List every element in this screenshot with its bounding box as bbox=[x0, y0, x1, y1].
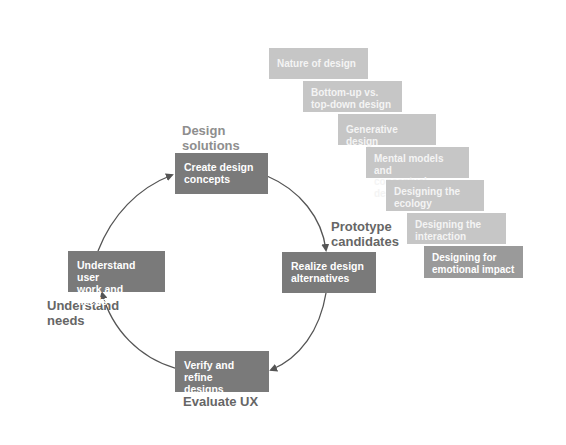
stage-label-line: candidates bbox=[331, 234, 399, 249]
node-understand-user-work-and-needs: Understand user work and needs bbox=[68, 251, 165, 292]
topic-generative-design: Generative design bbox=[338, 114, 436, 145]
topic-text: ecology bbox=[394, 198, 476, 210]
node-verify-and-refine-designs: Verify and refine designs bbox=[175, 351, 269, 392]
topic-nature-of-design: Nature of design bbox=[269, 48, 368, 79]
topic-text: interaction bbox=[415, 231, 498, 243]
topic-text: Generative design bbox=[346, 124, 428, 147]
topic-text: Designing the bbox=[394, 186, 476, 198]
stage-label-line: Prototype bbox=[331, 219, 399, 234]
node-text: Create design bbox=[184, 161, 259, 173]
arrow-create-to-realize bbox=[267, 176, 326, 250]
topic-bottom-up-vs-top-down: Bottom-up vs. top-down design bbox=[303, 81, 402, 112]
stage-label-line: solutions bbox=[182, 138, 240, 153]
stage-label-line: Design bbox=[182, 123, 240, 138]
node-text: alternatives bbox=[291, 272, 367, 284]
node-text: designs bbox=[184, 383, 260, 395]
node-realize-design-alternatives: Realize design alternatives bbox=[282, 252, 376, 293]
node-text: concepts bbox=[184, 173, 259, 185]
node-text: work and needs bbox=[77, 283, 156, 307]
node-text: Realize design bbox=[291, 260, 367, 272]
topic-text: Designing for bbox=[432, 252, 515, 264]
stage-label-prototype-candidates: Prototype candidates bbox=[331, 219, 399, 249]
topic-designing-for-emotional-impact: Designing for emotional impact bbox=[424, 246, 523, 278]
arrow-understand-to-create bbox=[98, 175, 172, 251]
stage-label-evaluate-ux: Evaluate UX bbox=[183, 394, 258, 409]
topic-text: Bottom-up vs. bbox=[311, 87, 394, 99]
stage-label-line: needs bbox=[47, 313, 119, 328]
topic-text: top-down design bbox=[311, 99, 394, 111]
topic-text: Nature of design bbox=[277, 58, 360, 70]
stage-label-line: Evaluate UX bbox=[183, 394, 258, 409]
topic-designing-the-ecology: Designing the ecology bbox=[386, 180, 484, 211]
node-text: Understand user bbox=[77, 259, 156, 283]
topic-designing-the-interaction: Designing the interaction bbox=[407, 213, 506, 244]
stage-label-design-solutions: Design solutions bbox=[182, 123, 240, 153]
topic-text: Mental models and bbox=[374, 153, 461, 176]
topic-mental-models: Mental models and conceptual design bbox=[366, 147, 469, 178]
node-create-design-concepts: Create design concepts bbox=[175, 153, 268, 194]
topic-text: Designing the bbox=[415, 219, 498, 231]
arrow-realize-to-verify bbox=[271, 293, 326, 370]
ux-design-cycle-diagram: Design solutions Prototype candidates Ev… bbox=[0, 0, 566, 445]
topic-text: emotional impact bbox=[432, 264, 515, 276]
node-text: Verify and refine bbox=[184, 359, 260, 383]
